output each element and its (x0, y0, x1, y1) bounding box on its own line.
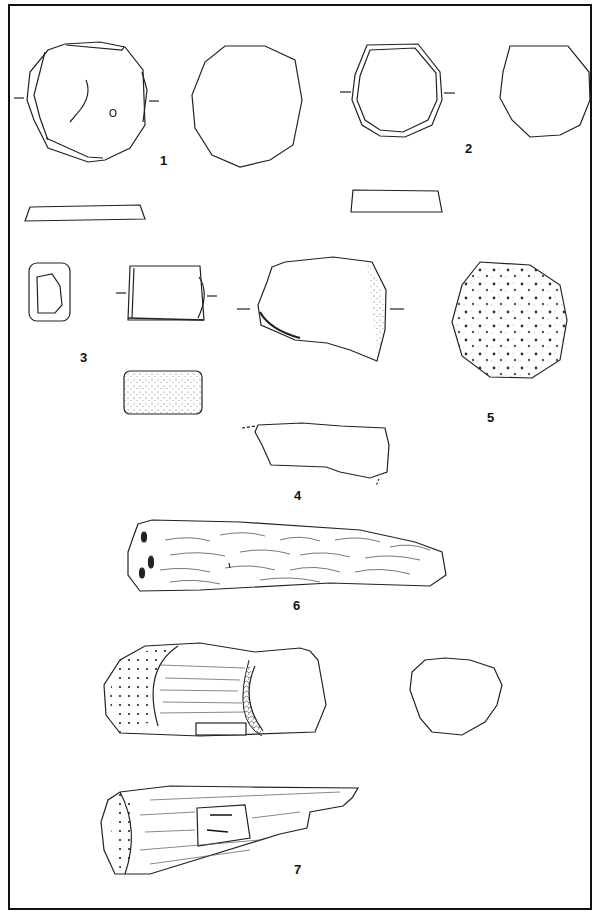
figure-7-section (410, 658, 502, 735)
figure-7-side-a (104, 643, 326, 736)
figure-1-number: 1 (160, 153, 167, 168)
figure-3-number: 3 (80, 350, 87, 365)
figure-3-end-view (29, 263, 70, 321)
figure-2-face-a (340, 44, 455, 137)
figure-4-side-view (242, 423, 389, 486)
figure-6-number: 6 (293, 598, 300, 613)
figure-6-side-view (128, 520, 446, 591)
figure-3-face-view (116, 266, 217, 320)
drawing-plate: 1 2 3 4 5 6 7 (0, 0, 601, 921)
figure-5-number: 5 (487, 410, 494, 425)
artifact-drawings (0, 0, 601, 921)
figure-1-face-b (192, 46, 302, 167)
figure-1-face-a (14, 42, 159, 162)
figure-2-number: 2 (465, 141, 472, 156)
figure-4-number: 4 (294, 488, 301, 503)
figure-7-number: 7 (294, 862, 301, 877)
figure-7-side-b (101, 786, 358, 874)
figure-5-face-view (452, 262, 567, 378)
figure-2-section (351, 190, 442, 212)
figure-3-side-view (124, 371, 202, 414)
figure-4-face-view (237, 257, 404, 361)
figure-2-face-b (500, 46, 590, 137)
figure-1-section (25, 205, 145, 221)
